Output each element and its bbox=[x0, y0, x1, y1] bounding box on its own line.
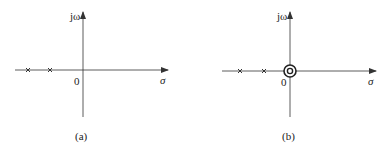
caption-b: (b) bbox=[282, 131, 295, 142]
real-axis-label-a: σ bbox=[160, 75, 165, 86]
pole-zero-plots bbox=[0, 0, 383, 158]
caption-a: (a) bbox=[75, 131, 87, 142]
diagram-b bbox=[222, 12, 376, 117]
diagram-a bbox=[15, 12, 168, 117]
origin-label-b: 0 bbox=[281, 77, 287, 88]
imag-axis-label-b: jω bbox=[277, 11, 287, 22]
real-axis-label-b: σ bbox=[368, 76, 373, 87]
origin-label-a: 0 bbox=[74, 76, 80, 87]
imag-axis-label-a: jω bbox=[70, 11, 80, 22]
